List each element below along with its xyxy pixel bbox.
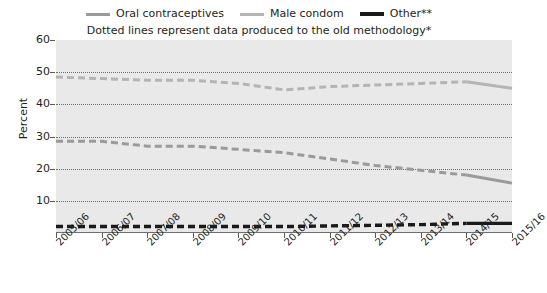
y-tick-mark-20	[50, 169, 55, 170]
legend-swatch-other	[360, 12, 384, 16]
series-line-male-condom-dashed	[56, 77, 466, 90]
legend-swatch-male-condom	[240, 13, 264, 16]
legend-item-other: Other**	[360, 8, 432, 20]
legend-label-other: Other**	[390, 8, 432, 20]
y-tick-mark-30	[50, 137, 55, 138]
y-tick-label-20: 20	[20, 163, 50, 174]
y-tick-mark-50	[50, 72, 55, 73]
chart-legend: Oral contraceptives Male condom Other**	[0, 8, 518, 20]
legend-item-male-condom: Male condom	[240, 8, 344, 20]
y-tick-mark-10	[50, 201, 55, 202]
legend-label-male-condom: Male condom	[270, 8, 344, 20]
legend-label-oral-contraceptives: Oral contraceptives	[116, 8, 224, 20]
y-tick-label-50: 50	[20, 66, 50, 77]
series-line-oral-contraceptives-dashed	[56, 141, 466, 175]
legend-swatch-oral-contraceptives	[86, 13, 110, 16]
legend-item-oral-contraceptives: Oral contraceptives	[86, 8, 224, 20]
x-tick-label-10: 2015/16	[510, 211, 547, 248]
y-tick-label-10: 10	[20, 195, 50, 206]
series-line-oral-contraceptives-solid	[466, 175, 512, 183]
series-line-male-condom-solid	[466, 82, 512, 88]
y-axis-ticks: 60 50 40 30 20 10	[18, 0, 50, 293]
series-layer	[56, 40, 512, 233]
y-tick-label-30: 30	[20, 131, 50, 142]
y-tick-mark-60	[50, 40, 55, 41]
y-tick-label-60: 60	[20, 34, 50, 45]
chart-subtitle: Dotted lines represent data produced to …	[0, 24, 518, 37]
y-tick-mark-40	[50, 104, 55, 105]
y-tick-label-40: 40	[20, 98, 50, 109]
